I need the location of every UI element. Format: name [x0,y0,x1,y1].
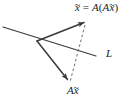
vector-xbar-arrow [37,23,84,42]
operator-A-axbar: A [67,84,74,96]
symbol-x-axbar: x [74,84,79,96]
vector-axbar-arrow [37,41,68,80]
accented-x-outer: x~ [75,2,80,13]
symbol-x-inner: x [109,1,114,13]
symbol-x-outer: x [75,1,80,13]
accented-x-inner: x~ [109,2,114,13]
line-L-stroke [3,27,96,56]
dashed-connector-stroke [70,25,85,82]
label-image-vector: Ax~ [67,85,79,96]
label-line-L: L [106,48,112,59]
label-result-vector: x~ = A(Ax~) [75,2,118,13]
accented-x-axbar: x~ [74,85,79,96]
close-paren: ) [114,1,118,13]
operator-A-outer: A [92,1,99,13]
linear-algebra-figure: x~ = A(Ax~) Ax~ L [0,0,131,103]
